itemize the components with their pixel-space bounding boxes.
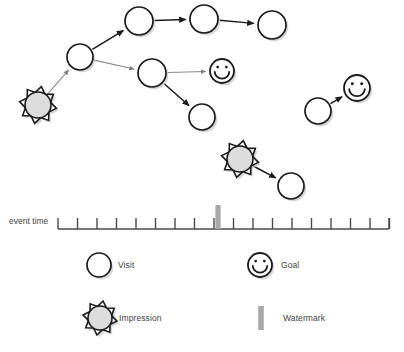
- node-imp2: [222, 141, 261, 180]
- edge-v1-to-v5: [94, 60, 134, 69]
- visit-node-icon[interactable]: [189, 104, 215, 130]
- circle-icon[interactable]: [87, 253, 111, 277]
- legend-icon-sun-icon: [83, 301, 119, 337]
- visit-node-icon[interactable]: [305, 98, 331, 124]
- visit-node-icon[interactable]: [278, 173, 304, 199]
- node-g2: [344, 75, 372, 103]
- legend-icon-circle-icon: [87, 253, 113, 279]
- node-v7: [305, 98, 333, 126]
- timeline-axis: [58, 205, 390, 229]
- event-stream-diagram: [0, 0, 404, 352]
- edge-v2-to-v3: [154, 20, 185, 21]
- node-v1: [67, 44, 95, 72]
- watermark-marker[interactable]: [215, 205, 220, 229]
- edge-v5-to-v6: [164, 83, 189, 105]
- impression-node-icon[interactable]: [227, 146, 253, 172]
- node-v6: [189, 104, 217, 132]
- node-v5: [138, 59, 168, 89]
- impression-node-icon[interactable]: [25, 92, 51, 118]
- visit-node-icon[interactable]: [138, 59, 166, 87]
- node-v8: [278, 173, 306, 201]
- watermark-bar-icon: [258, 306, 264, 330]
- edge-v5-to-g1: [167, 71, 205, 72]
- node-v2: [125, 7, 155, 37]
- goal-eye-left-icon: [216, 66, 219, 69]
- sun-icon[interactable]: [88, 306, 112, 330]
- node-v3: [190, 5, 220, 35]
- edge-imp1-to-v1: [48, 70, 69, 94]
- edge-imp2-to-v8: [253, 166, 276, 178]
- edge-v1-to-v2: [92, 31, 123, 50]
- node-v4: [258, 11, 288, 41]
- nodes-layer: [20, 5, 373, 201]
- legend-icons: [83, 253, 274, 337]
- visit-node-icon[interactable]: [258, 11, 286, 39]
- node-g1: [210, 59, 236, 85]
- goal-eye-left-icon: [351, 82, 354, 85]
- visit-node-icon[interactable]: [125, 7, 153, 35]
- legend-icon-watermark-bar-icon: [258, 306, 264, 330]
- edge-v3-to-v4: [219, 20, 253, 23]
- legend-icon-smiley-icon: [248, 253, 274, 279]
- edges-layer: [48, 20, 342, 178]
- node-imp1: [20, 87, 59, 126]
- diagram-root: event time Visit Goal Impression Waterma…: [0, 0, 404, 352]
- goal-eye-right-icon: [263, 260, 266, 263]
- goal-eye-left-icon: [254, 260, 257, 263]
- goal-eye-right-icon: [360, 82, 363, 85]
- visit-node-icon[interactable]: [67, 44, 93, 70]
- goal-eye-right-icon: [225, 66, 228, 69]
- edge-v7-to-g2: [330, 97, 341, 104]
- visit-node-icon[interactable]: [190, 5, 218, 33]
